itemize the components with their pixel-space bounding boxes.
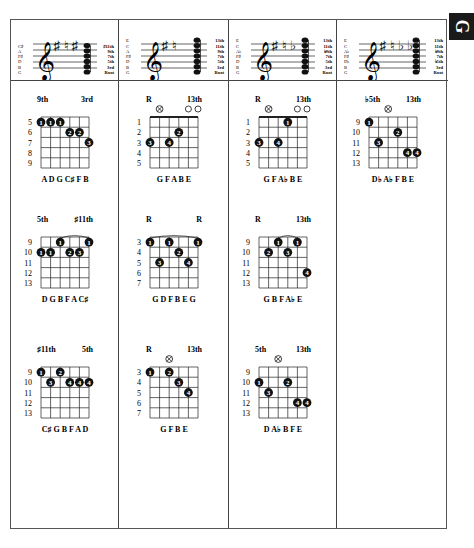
note-head: [302, 38, 309, 43]
chord-note-names: D A♭ B F E: [264, 425, 302, 434]
finger-number: 1: [58, 239, 62, 247]
finger-number: 2: [58, 369, 62, 377]
staff-interval-label: Root: [105, 70, 115, 75]
chord-top-left-label: ♭5th: [365, 95, 381, 104]
fret-number: 10: [352, 128, 360, 137]
finger-number: 4: [296, 399, 300, 407]
fret-number: 13: [242, 409, 250, 418]
finger-number: 3: [49, 379, 53, 387]
staff-interval-label: Root: [323, 70, 333, 75]
staff-note-label: A♭: [236, 49, 241, 54]
note-head: [84, 69, 91, 74]
accidental-icon: ♮: [390, 38, 395, 53]
fret-number: 11: [24, 259, 32, 268]
accidental-icon: ♭: [407, 38, 413, 53]
staff-interval-label: 11th: [324, 44, 333, 49]
fret-number: 3: [246, 139, 250, 148]
staff-interval-label: 13th: [323, 38, 332, 43]
fret-number: 5: [28, 118, 32, 127]
finger-number: 2: [68, 249, 72, 257]
chord-note-names: G F A♭ B E: [264, 175, 303, 184]
finger-number: 2: [177, 129, 181, 137]
finger-number: 1: [296, 239, 300, 247]
staff-interval-label: 11th: [216, 44, 225, 49]
finger-number: 1: [167, 239, 171, 247]
chord-note-names: D♭ A♭ F B E: [372, 175, 414, 184]
fret-number: 13: [24, 409, 32, 418]
fret-number: 6: [28, 128, 32, 137]
staff-interval-label: Root: [215, 70, 225, 75]
fret-number: 7: [137, 409, 141, 418]
staff-note-label: F♯: [236, 54, 242, 59]
staff-note-label: D♭: [344, 59, 349, 64]
staff-note-label: F♯: [18, 54, 24, 59]
staff-interval-label: 11th: [435, 44, 444, 49]
note-head: [194, 48, 201, 53]
staff-note-label: E: [126, 38, 129, 43]
finger-number: 1: [87, 239, 91, 247]
staff-interval-label: 5th: [326, 59, 333, 64]
fret-number: 4: [137, 149, 141, 158]
staff-interval-label: ♭9th: [324, 49, 333, 54]
staff-note-label: A: [18, 49, 22, 54]
staff-interval-label: 5th: [108, 59, 115, 64]
fret-number: 5: [246, 159, 250, 168]
staff-note-label: D: [18, 59, 22, 64]
staff-interval-label: 9th: [218, 49, 225, 54]
finger-number: 2: [78, 129, 82, 137]
staff-note-label: C: [344, 44, 347, 49]
note-head: [302, 54, 309, 59]
fret-number: 6: [137, 269, 141, 278]
chord-top-right-label: 13th: [296, 95, 312, 104]
chord-top-left-label: R: [255, 95, 261, 104]
chord-top-right-label: 5th: [82, 345, 94, 354]
open-string-icon: [195, 106, 201, 112]
finger-number: 2: [286, 379, 290, 387]
finger-number: 4: [415, 149, 419, 157]
finger-number: 4: [305, 399, 309, 407]
finger-number: 2: [68, 129, 72, 137]
fret-number: 12: [242, 399, 250, 408]
fret-number: 3: [137, 139, 141, 148]
chord-note-names: D G B F A C♯: [42, 295, 89, 304]
accidental-icon: ♯: [380, 38, 387, 53]
chord-top-left-label: 5th: [37, 215, 49, 224]
chord-note-names: A D G C♯ F B: [41, 175, 89, 184]
chord-top-right-label: 13th: [187, 95, 203, 104]
fret-number: 10: [242, 378, 250, 387]
notation-staff: 𝄞C♯AF♯DBG♯11th9th7th5th3rdRoot♯♮♯: [11, 20, 118, 81]
fret-number: 4: [137, 378, 141, 387]
staff-interval-label: 7th: [326, 54, 333, 59]
note-head: [84, 43, 91, 48]
finger-number: 1: [286, 119, 290, 127]
note-head: [84, 54, 91, 59]
finger-number: 4: [167, 139, 171, 147]
note-head: [84, 59, 91, 64]
chord-column-3: 𝄞ECA♭F♯DBG13th11th♭9th7th5th3rdRoot♯♮♭R1…: [229, 20, 337, 528]
staff-interval-label: 3rd: [217, 65, 224, 70]
chord-top-left-label: 5th: [255, 345, 267, 354]
fret-number: 11: [24, 389, 32, 398]
chord-top-right-label: 13th: [406, 95, 422, 104]
note-head: [302, 43, 309, 48]
staff-note-label: C: [126, 44, 129, 49]
note-head: [413, 48, 420, 53]
staff-interval-label: 7th: [437, 54, 444, 59]
note-head: [413, 69, 420, 74]
finger-number: 3: [267, 389, 271, 397]
chord-top-left-label: ♯11th: [37, 345, 56, 354]
note-head: [194, 43, 201, 48]
finger-number: 4: [406, 149, 410, 157]
note-head: [413, 43, 420, 48]
fret-number: 4: [246, 149, 250, 158]
finger-number: 4: [187, 389, 191, 397]
finger-number: 2: [177, 249, 181, 257]
chord-top-right-label: ♯11th: [74, 215, 93, 224]
staff-interval-label: 9th: [108, 49, 115, 54]
staff-note-label: D: [126, 59, 130, 64]
fret-number: 2: [137, 128, 141, 137]
staff-note-label: G: [18, 70, 22, 75]
fret-number: 3: [137, 368, 141, 377]
staff-note-label: F♯: [344, 54, 350, 59]
treble-clef-icon: 𝄞: [35, 42, 55, 80]
